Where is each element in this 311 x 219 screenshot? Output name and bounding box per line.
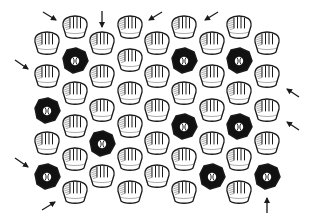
baseball-glove-icon xyxy=(63,148,87,170)
baseball-glove-icon xyxy=(172,82,196,104)
baseball-glove-icon xyxy=(63,181,87,203)
arrow-icon-up-right xyxy=(42,202,55,210)
baseball-glove-icon xyxy=(90,165,114,187)
baseball-glove-icon xyxy=(255,65,279,87)
baseball-glove-icon xyxy=(90,99,114,121)
baseball-glove-icon xyxy=(145,65,169,87)
arrow-icon-down-right xyxy=(15,158,28,167)
baseball-glove-icon xyxy=(145,165,169,187)
baseball-glove-icon xyxy=(145,32,169,54)
baseball-glove-icon xyxy=(118,16,142,38)
baseball-glove-icon xyxy=(90,65,114,87)
baseball-glove-icon xyxy=(118,49,142,71)
baseball-icon xyxy=(255,164,280,189)
glove-ball-diagram: Hexagonal staggered grid of baseball glo… xyxy=(0,0,311,219)
baseball-icon xyxy=(90,131,115,156)
baseball-glove-icon xyxy=(35,132,59,154)
baseball-glove-icon xyxy=(200,65,224,87)
grid-cells xyxy=(35,16,280,203)
diagram-canvas xyxy=(0,0,311,219)
arrow-icon-down-right xyxy=(15,60,28,69)
arrow-icon-down-left xyxy=(149,12,162,20)
baseball-glove-icon xyxy=(63,115,87,137)
baseball-glove-icon xyxy=(255,132,279,154)
baseball-glove-icon xyxy=(227,148,251,170)
arrow-icon-up-left xyxy=(287,89,299,97)
baseball-glove-icon xyxy=(63,82,87,104)
baseball-icon xyxy=(35,164,60,189)
baseball-glove-icon xyxy=(255,32,279,54)
baseball-icon xyxy=(35,98,60,123)
baseball-glove-icon xyxy=(200,32,224,54)
baseball-glove-icon xyxy=(118,181,142,203)
baseball-glove-icon xyxy=(35,65,59,87)
baseball-icon xyxy=(200,164,225,189)
baseball-glove-icon xyxy=(227,181,251,203)
baseball-glove-icon xyxy=(227,82,251,104)
baseball-icon xyxy=(172,114,197,139)
baseball-glove-icon xyxy=(200,99,224,121)
baseball-glove-icon xyxy=(118,82,142,104)
baseball-glove-icon xyxy=(118,148,142,170)
baseball-glove-icon xyxy=(255,99,279,121)
arrow-icon-up-left xyxy=(287,122,299,130)
baseball-glove-icon xyxy=(227,16,251,38)
baseball-glove-icon xyxy=(172,16,196,38)
arrow-icon-down-right xyxy=(43,12,56,20)
baseball-icon xyxy=(172,48,197,73)
baseball-glove-icon xyxy=(63,16,87,38)
baseball-glove-icon xyxy=(172,148,196,170)
baseball-glove-icon xyxy=(172,181,196,203)
baseball-glove-icon xyxy=(145,99,169,121)
baseball-glove-icon xyxy=(90,32,114,54)
baseball-icon xyxy=(63,48,88,73)
baseball-glove-icon xyxy=(145,132,169,154)
arrow-icon-down-left xyxy=(205,12,218,20)
baseball-glove-icon xyxy=(200,132,224,154)
baseball-icon xyxy=(227,48,252,73)
baseball-glove-icon xyxy=(35,32,59,54)
baseball-icon xyxy=(227,114,252,139)
baseball-glove-icon xyxy=(118,115,142,137)
